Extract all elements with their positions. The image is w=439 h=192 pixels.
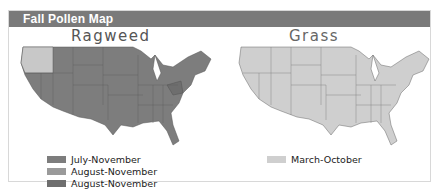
grass-us-map [231,45,436,151]
legend-swatch [47,156,66,163]
legend-swatch [47,180,66,187]
legend-item: August-November [47,165,157,177]
legend-swatch [47,168,66,175]
legend-item: August-November [47,177,157,189]
legend-label: August-November [71,178,157,189]
legend-item: March-October [267,153,362,165]
ragweed-legend: July-November August-November August-Nov… [47,153,157,189]
grass-map-title: Grass [289,27,339,45]
legend-label: August-November [71,166,157,177]
ragweed-map-title: Ragweed [71,27,151,45]
grass-legend: March-October [267,153,362,165]
legend-swatch [267,156,286,163]
ragweed-us-map [13,45,218,151]
panel-header: Fall Pollen Map [9,11,430,27]
fall-pollen-map-panel: Fall Pollen Map Ragweed Grass [8,10,431,182]
panel-title: Fall Pollen Map [23,12,113,26]
legend-item: July-November [47,153,157,165]
legend-label: March-October [291,154,362,165]
legend-label: July-November [71,154,141,165]
